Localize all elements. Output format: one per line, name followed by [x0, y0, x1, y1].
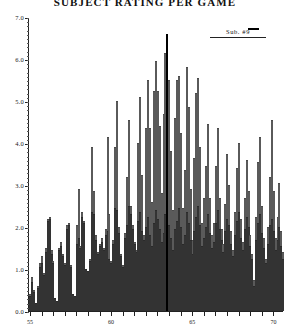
chart-title: SUBJECT RATING PER GAME — [0, 0, 290, 7]
x-axis-major-tick — [273, 311, 274, 316]
bar-segment-upper — [280, 231, 282, 246]
x-axis-tick — [100, 312, 101, 316]
bar-segment-upper — [221, 229, 223, 240]
chart-root: SUBJECT RATING PER GAME 0.01.02.03.04.05… — [0, 0, 290, 336]
x-axis-tick-label: 60 — [108, 319, 114, 325]
x-axis-tick — [123, 312, 124, 316]
x-axis-tick — [262, 312, 263, 316]
bar-series — [29, 18, 283, 311]
x-axis-tick — [204, 312, 205, 316]
plot-area: 0.01.02.03.04.05.06.07.0 55606570 — [28, 18, 283, 312]
bar-segment-upper — [278, 183, 280, 227]
x-axis-tick — [42, 312, 43, 316]
bar-segment-upper — [228, 185, 230, 225]
x-axis-tick — [250, 312, 251, 316]
bar-segment-upper — [199, 147, 201, 225]
bar-segment-upper — [249, 235, 251, 246]
bar-segment-lower — [282, 259, 284, 312]
bar-segment-upper — [190, 189, 192, 239]
bar-segment-upper — [261, 206, 263, 233]
bar-segment-upper — [263, 238, 265, 249]
x-axis-tick — [239, 312, 240, 316]
y-axis-tick-label: 3.0 — [0, 182, 24, 189]
x-axis-tick — [146, 312, 147, 316]
y-axis-tick-label: 1.0 — [0, 266, 24, 273]
x-axis-tick — [181, 312, 182, 316]
bar — [282, 252, 283, 311]
y-axis-tick-label: 4.0 — [0, 140, 24, 147]
bar-segment-upper — [130, 206, 132, 214]
bar-segment-upper — [248, 191, 250, 227]
bar-segment-upper — [273, 191, 275, 231]
bar-segment-upper — [78, 189, 80, 237]
bar-segment-upper — [230, 231, 232, 244]
x-axis-line — [28, 311, 283, 312]
x-axis-tick-label: 65 — [189, 319, 195, 325]
bar-segment-upper — [141, 175, 143, 232]
x-axis-tick — [88, 312, 89, 316]
bar-segment-upper — [209, 198, 211, 234]
bar-segment-upper — [259, 137, 261, 215]
bar-segment-upper — [93, 191, 95, 214]
bar-segment-upper — [108, 214, 110, 258]
y-axis-tick-label: 7.0 — [0, 14, 24, 21]
y-axis-tick-label: 6.0 — [0, 56, 24, 63]
bar-segment-upper — [238, 143, 240, 212]
bar-segment-upper — [240, 219, 242, 238]
legend: Sub. #9 — [210, 28, 266, 38]
x-axis-tick — [134, 312, 135, 316]
x-axis-major-tick — [192, 311, 193, 316]
legend-swatch — [248, 28, 259, 30]
x-axis-tick-label: 70 — [270, 319, 276, 325]
y-axis-tick-label: 5.0 — [0, 98, 24, 105]
bar-segment-upper — [128, 120, 130, 206]
x-axis-tick-label: 55 — [27, 319, 33, 325]
x-axis-tick — [65, 312, 66, 316]
x-axis-tick — [76, 312, 77, 316]
x-axis-tick — [169, 312, 170, 316]
x-axis-tick — [157, 312, 158, 316]
y-axis-tick-label: 2.0 — [0, 224, 24, 231]
bar-segment-upper — [116, 101, 118, 210]
x-axis-tick — [215, 312, 216, 316]
bar-segment-upper — [219, 198, 221, 230]
x-axis-tick — [227, 312, 228, 316]
y-axis-minor-tick — [27, 312, 29, 313]
y-axis-tick-label: 0.0 — [0, 308, 24, 315]
legend-rule — [210, 37, 266, 38]
x-axis-tick — [53, 312, 54, 316]
x-axis-major-tick — [111, 311, 112, 316]
x-axis-major-tick — [30, 311, 31, 316]
